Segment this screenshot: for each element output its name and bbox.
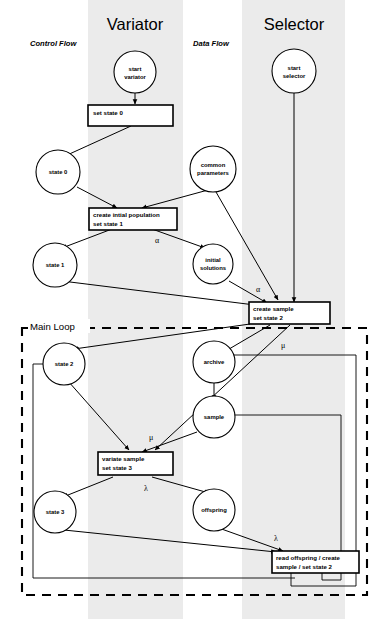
node-sample-label: sample (204, 414, 225, 420)
node-initial-solutions-line1: initial (205, 257, 221, 263)
label-data-flow: Data Flow (193, 39, 230, 48)
box-set-state-0-line1: set state 0 (93, 109, 123, 116)
node-common-parameters-line2: parameters (197, 170, 229, 176)
box-variate-sample-line1: variate sample (102, 455, 145, 462)
edge-label-lambda-2: λ (274, 534, 278, 543)
node-common-parameters-line1: common (201, 162, 226, 168)
lane-title-variator: Variator (107, 15, 164, 33)
box-read-offspring-line1: read offspring / create (276, 554, 341, 561)
node-start-selector[interactable]: start selector (272, 49, 316, 93)
node-start-selector-line1: start (288, 65, 301, 71)
pisa-state-machine-diagram: Variator Selector Control Flow Data Flow… (0, 0, 388, 619)
box-variate-sample-line2: set state 3 (102, 464, 132, 471)
lane-title-selector: Selector (264, 15, 325, 33)
node-offspring[interactable]: offspring (193, 489, 235, 531)
box-set-state-0[interactable]: set state 0 (88, 105, 173, 126)
node-start-selector-line2: selector (283, 73, 306, 79)
box-variate-sample[interactable]: variate sample set state 3 (98, 452, 173, 475)
box-create-initial-population-line2: set state 1 (93, 220, 123, 227)
node-start-variator[interactable]: start variator (114, 51, 156, 93)
node-initial-solutions-line2: solutions (200, 265, 227, 271)
box-read-offspring-line2: sample / set state 2 (276, 563, 332, 570)
diagram-canvas: Variator Selector Control Flow Data Flow… (0, 0, 388, 619)
node-archive-label: archive (204, 359, 225, 365)
node-state-2-label: state 2 (55, 361, 74, 367)
node-start-variator-line2: variator (124, 74, 146, 80)
main-loop-label: Main Loop (30, 321, 75, 332)
edge-label-lambda-1: λ (144, 484, 148, 493)
node-state-1-label: state 1 (46, 262, 65, 268)
node-sample[interactable]: sample (193, 396, 235, 438)
box-read-offspring[interactable]: read offspring / create sample / set sta… (272, 551, 359, 573)
box-create-sample-line2: set state 2 (253, 314, 283, 321)
edge-label-mu-1: μ (281, 341, 285, 350)
node-state-2[interactable]: state 2 (43, 343, 85, 385)
node-start-variator-line1: start (129, 66, 142, 72)
node-common-parameters[interactable]: common parameters (190, 146, 236, 192)
node-state-3-label: state 3 (46, 509, 65, 515)
node-offspring-label: offspring (201, 507, 227, 513)
label-control-flow: Control Flow (30, 39, 77, 48)
box-create-sample-line1: create sample (253, 305, 294, 312)
box-create-sample[interactable]: create sample set state 2 (249, 302, 330, 324)
edge-label-mu-2: μ (149, 433, 153, 442)
node-state-0[interactable]: state 0 (36, 150, 80, 194)
node-state-1[interactable]: state 1 (33, 243, 77, 287)
node-state-0-label: state 0 (49, 169, 68, 175)
node-archive[interactable]: archive (193, 341, 235, 383)
box-create-initial-population-line1: create intial population (93, 211, 160, 218)
node-state-3[interactable]: state 3 (34, 491, 76, 533)
node-initial-solutions[interactable]: initial solutions (193, 244, 233, 284)
box-create-initial-population[interactable]: create intial population set state 1 (89, 208, 177, 230)
